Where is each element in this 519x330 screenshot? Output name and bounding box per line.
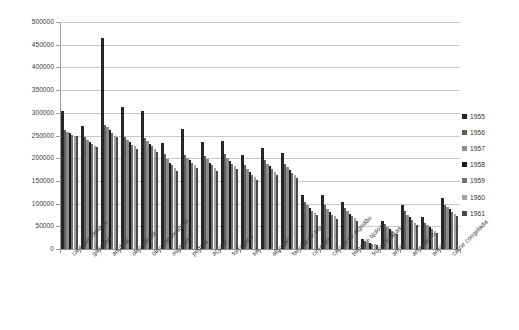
y-tick-label: 300000 (32, 109, 54, 116)
y-tick-label: 50000 (35, 222, 54, 229)
plot-area (60, 22, 460, 249)
bar-cluster (81, 22, 98, 249)
x-axis-category-labels: café beneficiadogasolinaadubosóleo diese… (60, 252, 460, 330)
legend-label: 1956 (470, 129, 485, 136)
legend-swatch-icon (462, 195, 467, 200)
bar-cluster (121, 22, 138, 249)
legend-item[interactable]: 1957 (462, 140, 517, 156)
bar (136, 149, 138, 249)
bar (176, 171, 178, 249)
legend-item[interactable]: 1958 (462, 157, 517, 173)
bar (196, 168, 198, 249)
bar-cluster (161, 22, 178, 249)
bar-cluster (301, 22, 318, 249)
legend-swatch-icon (462, 162, 467, 167)
bar-cluster (101, 22, 118, 249)
y-tick-label: 400000 (32, 63, 54, 70)
y-tick-label: 250000 (32, 132, 54, 139)
legend-swatch-icon (462, 146, 467, 151)
bar-cluster (421, 22, 438, 249)
bar (296, 178, 298, 249)
bar-cluster (401, 22, 418, 249)
legend-swatch-icon (462, 178, 467, 183)
bar-cluster (281, 22, 298, 249)
y-tick-label: 350000 (32, 86, 54, 93)
bar (256, 180, 258, 249)
bar-cluster (61, 22, 78, 249)
bar-cluster (261, 22, 278, 249)
legend-item[interactable]: 1960 (462, 189, 517, 205)
y-tick-label: 100000 (32, 200, 54, 207)
legend-swatch-icon (462, 211, 467, 216)
legend-label: 1959 (470, 177, 485, 184)
y-tick-label: 0 (50, 245, 54, 252)
legend-label: 1957 (470, 145, 485, 152)
bar (276, 175, 278, 249)
legend-item[interactable]: 1956 (462, 124, 517, 140)
legend-label: 1961 (470, 210, 485, 217)
bar-cluster (361, 22, 378, 249)
y-axis-tick-labels: 0500001000001500002000002500003000003500… (0, 22, 54, 249)
y-tick-label: 500000 (32, 18, 54, 25)
legend: 1955195619571958195919601961 (462, 108, 517, 221)
bar-cluster (381, 22, 398, 249)
legend-label: 1955 (470, 113, 485, 120)
bar-cluster (221, 22, 238, 249)
legend-item[interactable]: 1959 (462, 173, 517, 189)
bars-layer (60, 22, 460, 249)
bar-cluster (181, 22, 198, 249)
legend-swatch-icon (462, 130, 467, 135)
legend-item[interactable]: 1961 (462, 205, 517, 221)
bar (76, 136, 78, 249)
legend-item[interactable]: 1955 (462, 108, 517, 124)
bar-cluster (141, 22, 158, 249)
y-tick-label: 450000 (32, 41, 54, 48)
bar (216, 171, 218, 249)
bar (116, 137, 118, 249)
bar-chart: 0500001000001500002000002500003000003500… (0, 0, 519, 330)
bar-cluster (341, 22, 358, 249)
bar (236, 169, 238, 249)
legend-swatch-icon (462, 114, 467, 119)
y-tick-label: 150000 (32, 177, 54, 184)
bar-cluster (321, 22, 338, 249)
bar-cluster (201, 22, 218, 249)
y-tick-label: 200000 (32, 154, 54, 161)
legend-label: 1958 (470, 161, 485, 168)
bar-cluster (441, 22, 458, 249)
bar-cluster (241, 22, 258, 249)
legend-label: 1960 (470, 194, 485, 201)
